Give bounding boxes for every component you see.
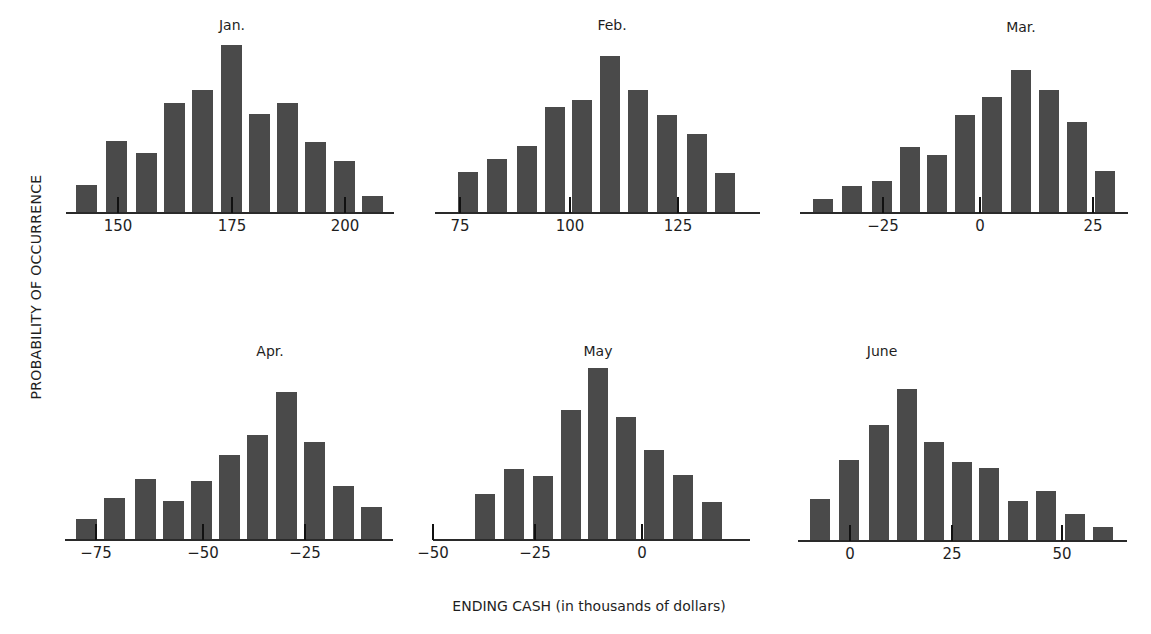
histogram-bar: [106, 141, 127, 212]
x-tick-mark: [1092, 197, 1094, 213]
histogram-bar: [644, 450, 664, 539]
x-tick-mark: [459, 197, 461, 213]
panel-title: Feb.: [597, 17, 626, 33]
histogram-bar: [687, 134, 707, 212]
panel-title: Apr.: [256, 343, 283, 359]
x-axis-label: ENDING CASH (in thousands of dollars): [452, 598, 725, 614]
x-tick-label: 50: [1052, 545, 1071, 563]
histogram-bar: [277, 103, 298, 212]
histogram-bar: [76, 519, 97, 539]
x-tick-label: 175: [218, 217, 247, 235]
histogram-bar: [1095, 171, 1115, 212]
histogram-bar: [249, 114, 270, 212]
histogram-bar: [361, 507, 382, 539]
histogram-bar: [1093, 527, 1113, 540]
histogram-bar: [1039, 90, 1059, 212]
chart-panel-june: June02550: [0, 0, 1151, 634]
histogram-bar: [276, 392, 297, 539]
x-tick-label: 150: [104, 217, 133, 235]
histogram-bar: [545, 107, 565, 212]
histogram-bar: [1011, 70, 1031, 212]
x-tick-mark: [202, 524, 204, 540]
histogram-bar: [572, 100, 592, 212]
chart-panel-may: May−50−250: [0, 0, 1151, 634]
x-tick-label: −25: [289, 544, 321, 562]
x-tick-label: 200: [331, 217, 360, 235]
histogram-bar: [657, 115, 677, 212]
panel-title: May: [584, 343, 613, 359]
histogram-bar: [897, 389, 917, 540]
histogram-bar: [702, 502, 722, 539]
histogram-bar: [458, 172, 478, 212]
histogram-bar: [221, 45, 242, 212]
chart-panel-mar: Mar.−25025: [0, 0, 1151, 634]
chart-panel-apr: Apr.−75−50−25: [0, 0, 1151, 634]
histogram-bar: [715, 173, 735, 212]
x-tick-label: −25: [867, 217, 899, 235]
histogram-bar: [1067, 122, 1087, 212]
histogram-bar: [504, 469, 524, 539]
histogram-bar: [872, 181, 892, 212]
histogram-bar: [334, 161, 355, 212]
histogram-bar: [600, 56, 620, 212]
histogram-bar: [333, 486, 354, 539]
x-tick-mark: [95, 524, 97, 540]
histogram-bar: [305, 142, 326, 212]
histogram-bar: [673, 475, 693, 539]
histogram-bar: [927, 155, 947, 212]
histogram-bar: [104, 498, 125, 539]
x-axis-line: [65, 539, 393, 541]
panel-title: June: [867, 343, 898, 359]
histogram-bar: [924, 442, 944, 540]
histogram-bar: [304, 442, 325, 539]
x-tick-mark: [677, 197, 679, 213]
histogram-bar: [76, 185, 97, 212]
histogram-bar: [869, 425, 889, 540]
panel-title: Mar.: [1006, 19, 1036, 35]
histogram-bar: [247, 435, 268, 539]
y-axis-label: PROBABILITY OF OCCURRENCE: [28, 175, 44, 400]
x-tick-mark: [569, 197, 571, 213]
x-tick-mark: [1061, 525, 1063, 541]
x-axis-line: [433, 539, 750, 541]
histogram-bar: [192, 90, 213, 212]
histogram-bar: [136, 153, 157, 212]
histogram-bar: [561, 410, 581, 539]
histogram-bar: [533, 476, 553, 539]
x-tick-label: 25: [942, 545, 961, 563]
histogram-bar: [955, 115, 975, 212]
x-tick-mark: [979, 197, 981, 213]
histogram-bar: [839, 460, 859, 540]
x-tick-mark: [304, 524, 306, 540]
x-tick-label: −50: [187, 544, 219, 562]
histogram-bar: [487, 159, 507, 212]
x-tick-mark: [344, 197, 346, 213]
histogram-bar: [979, 468, 999, 540]
histogram-bar: [900, 147, 920, 212]
histogram-bar: [1065, 514, 1085, 540]
x-axis-line: [435, 212, 760, 214]
x-tick-label: 0: [637, 544, 647, 562]
x-tick-mark: [231, 197, 233, 213]
x-tick-label: 25: [1083, 217, 1102, 235]
histogram-bar: [219, 455, 240, 539]
histogram-bar: [191, 481, 212, 539]
histogram-bar: [810, 499, 830, 540]
histogram-bar: [588, 368, 608, 539]
x-tick-label: −50: [417, 544, 449, 562]
panel-title: Jan.: [219, 17, 245, 33]
histogram-bar: [362, 196, 383, 212]
x-axis-line: [800, 212, 1128, 214]
histogram-bar: [163, 501, 184, 539]
chart-panel-feb: Feb.75100125: [0, 0, 1151, 634]
x-tick-mark: [951, 525, 953, 541]
histogram-bar: [517, 146, 537, 212]
histogram-bar: [952, 462, 972, 540]
x-tick-label: 100: [556, 217, 585, 235]
x-tick-mark: [641, 524, 643, 540]
x-tick-label: 75: [450, 217, 469, 235]
x-tick-mark: [882, 197, 884, 213]
histogram-bar: [616, 417, 636, 539]
histogram-bar: [164, 103, 185, 212]
histogram-bar: [135, 479, 156, 539]
